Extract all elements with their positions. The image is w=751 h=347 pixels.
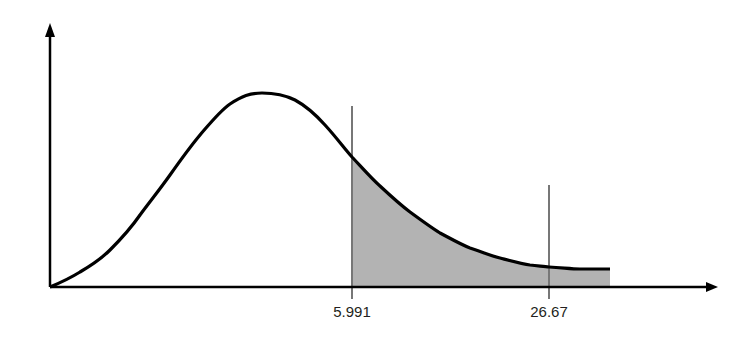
test-statistic-label: 26.67 bbox=[530, 303, 568, 320]
chi-square-chart: 5.991 26.67 bbox=[0, 0, 751, 347]
y-axis-arrow-icon bbox=[45, 23, 55, 37]
x-axis-arrow-icon bbox=[706, 282, 718, 292]
density-curve bbox=[50, 93, 610, 287]
critical-value-label: 5.991 bbox=[333, 303, 371, 320]
